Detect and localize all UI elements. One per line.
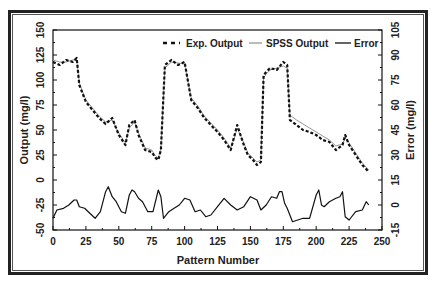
legend-error-label: Error xyxy=(354,38,379,49)
y2-tick-label: 45 xyxy=(390,124,401,136)
x-tick-label: 50 xyxy=(113,236,125,247)
y2-tick-label: 90 xyxy=(390,49,401,61)
y-tick-label: 25 xyxy=(35,149,46,161)
legend-spss-output-label: SPSS Output xyxy=(266,38,329,49)
x-tick-label: 250 xyxy=(374,236,391,247)
x-tick-label: 0 xyxy=(50,236,56,247)
y-right-axis-title: Error (mg/l) xyxy=(404,100,416,160)
x-tick-label: 150 xyxy=(242,236,259,247)
y-tick-label: 50 xyxy=(35,124,46,136)
legend: Exp. Output SPSS Output Error xyxy=(163,38,379,49)
legend-exp-output-label: Exp. Output xyxy=(186,38,243,49)
y2-tick-label: 75 xyxy=(390,74,401,86)
y2-tick-label: -15 xyxy=(390,222,401,237)
x-tick-label: 225 xyxy=(341,236,358,247)
y-tick-label: 75 xyxy=(35,99,46,111)
x-axis-title: Pattern Number xyxy=(177,254,260,266)
series-layer xyxy=(53,58,369,222)
x-tick-label: 75 xyxy=(146,236,158,247)
y2-tick-label: 30 xyxy=(390,149,401,161)
x-tick-label: 100 xyxy=(176,236,193,247)
y-tick-label: -50 xyxy=(35,222,46,237)
y2-tick-label: 105 xyxy=(390,21,401,38)
x-tick-label: 200 xyxy=(308,236,325,247)
error-line xyxy=(53,187,369,222)
exp-output-line xyxy=(53,58,369,172)
spss-output-line xyxy=(53,60,369,170)
y2-tick-label: 0 xyxy=(390,202,401,208)
y-tick-label: 125 xyxy=(35,46,46,63)
y2-tick-label: 60 xyxy=(390,99,401,111)
y-left-axis-title: Output (mg/l) xyxy=(18,95,30,164)
x-tick-label: 125 xyxy=(209,236,226,247)
x-tick-label: 175 xyxy=(275,236,292,247)
x-tick-label: 25 xyxy=(80,236,92,247)
y-tick-label: 150 xyxy=(35,21,46,38)
y2-tick-label: 15 xyxy=(390,174,401,186)
y-tick-label: -25 xyxy=(35,197,46,212)
y-tick-label: 100 xyxy=(35,71,46,88)
line-chart: 0255075100125150175200225250-50-25025507… xyxy=(0,0,436,285)
y-tick-label: 0 xyxy=(35,177,46,183)
